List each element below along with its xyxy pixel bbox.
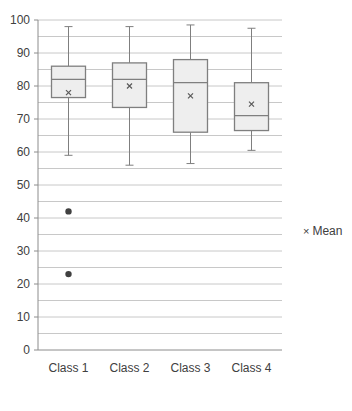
y-tick-label: 70 [17,112,31,126]
y-tick-label: 30 [17,244,31,258]
box-series [52,25,269,277]
outlier-point [65,208,71,214]
outlier-point [65,271,71,277]
x-axis: Class 1Class 2Class 3Class 4 [38,350,282,375]
x-category-label: Class 1 [48,361,88,375]
y-tick-label: 80 [17,79,31,93]
x-category-label: Class 4 [231,361,271,375]
y-axis: 0102030405060708090100 [10,13,38,357]
box-4 [235,28,269,150]
x-category-label: Class 2 [109,361,149,375]
y-tick-label: 0 [23,343,30,357]
y-tick-label: 20 [17,277,31,291]
mean-marker-icon: × [303,225,309,237]
x-category-label: Class 3 [170,361,210,375]
y-tick-label: 60 [17,145,31,159]
y-tick-label: 100 [10,13,30,27]
box-3 [174,25,208,164]
y-tick-label: 10 [17,310,31,324]
legend: ×Mean [303,224,342,238]
iqr-box [235,83,269,131]
box-plot-chart: 0102030405060708090100 Class 1Class 2Cla… [0,0,352,411]
legend-label-mean: Mean [312,224,342,238]
y-tick-label: 40 [17,211,31,225]
box-2 [113,27,147,166]
y-tick-label: 50 [17,178,31,192]
y-tick-label: 90 [17,46,31,60]
